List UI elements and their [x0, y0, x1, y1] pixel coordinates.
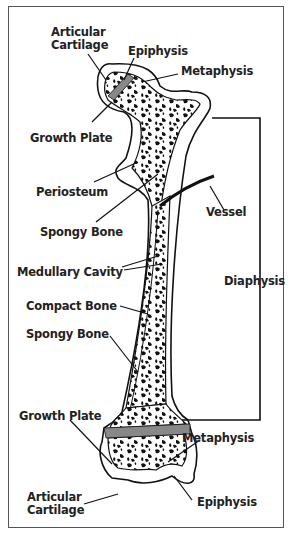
label-articular-cartilage-top: Articular Cartilage — [51, 26, 108, 52]
label-articular-cartilage-bottom: Articular Cartilage — [27, 491, 84, 517]
distal-epiphysis-spongy — [108, 434, 187, 470]
label-spongy-bone-bottom: Spongy Bone — [26, 328, 109, 341]
label-growth-plate-top: Growth Plate — [30, 132, 112, 145]
diaphysis-bracket — [182, 118, 260, 420]
label-spongy-bone-top: Spongy Bone — [40, 226, 123, 239]
label-vessel: Vessel — [206, 206, 246, 219]
label-metaphysis-top: Metaphysis — [181, 65, 253, 78]
label-periosteum: Periosteum — [36, 186, 108, 199]
label-epiphysis-top: Epiphysis — [128, 45, 188, 58]
label-medullary-cavity: Medullary Cavity — [17, 266, 123, 279]
label-growth-plate-bottom: Growth Plate — [19, 410, 101, 423]
label-metaphysis-bottom: Metaphysis — [182, 432, 254, 445]
label-diaphysis: Diaphysis — [224, 275, 285, 288]
label-epiphysis-bottom: Epiphysis — [197, 496, 257, 509]
label-compact-bone: Compact Bone — [26, 300, 117, 313]
